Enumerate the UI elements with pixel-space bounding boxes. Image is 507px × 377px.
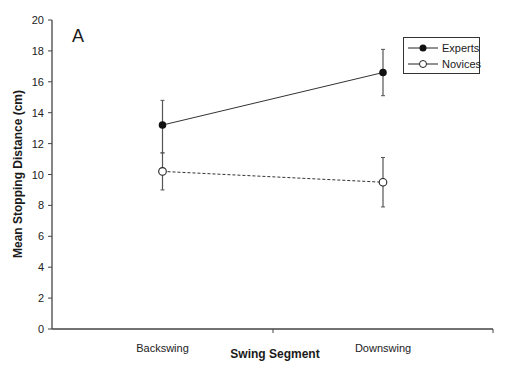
data-series (159, 49, 387, 207)
open-circle-marker-icon (159, 168, 167, 176)
filled-circle-marker-icon (408, 43, 438, 53)
y-tick-label: 14 (32, 107, 44, 119)
x-axis-label: Swing Segment (190, 347, 360, 361)
legend-label: Experts (442, 42, 479, 54)
legend-label: Novices (442, 58, 481, 70)
y-tick-label: 2 (38, 292, 44, 304)
legend: Experts Novices (403, 37, 480, 74)
y-tick-label: 12 (32, 138, 44, 150)
y-axis-label: Mean Stopping Distance (cm) (11, 84, 25, 264)
y-tick-label: 8 (38, 199, 44, 211)
panel-label: A (72, 26, 84, 47)
open-circle-marker-icon (379, 178, 387, 186)
y-tick-label: 0 (38, 323, 44, 335)
x-tick-label: Backswing (136, 342, 189, 354)
y-tick-label: 4 (38, 261, 44, 273)
series-line (163, 73, 384, 126)
series-experts (159, 49, 387, 153)
filled-circle-marker-icon (159, 121, 167, 129)
x-tick-label: Downswing (355, 342, 411, 354)
y-tick-label: 6 (38, 230, 44, 242)
legend-item-novices: Novices (408, 57, 481, 71)
legend-item-experts: Experts (408, 41, 479, 55)
series-line (163, 171, 384, 182)
y-tick-label: 10 (32, 169, 44, 181)
series-novices (159, 153, 387, 207)
filled-circle-marker-icon (379, 69, 387, 77)
y-tick-label: 18 (32, 45, 44, 57)
y-tick-label: 20 (32, 14, 44, 26)
y-tick-label: 16 (32, 76, 44, 88)
open-circle-marker-icon (408, 59, 438, 69)
